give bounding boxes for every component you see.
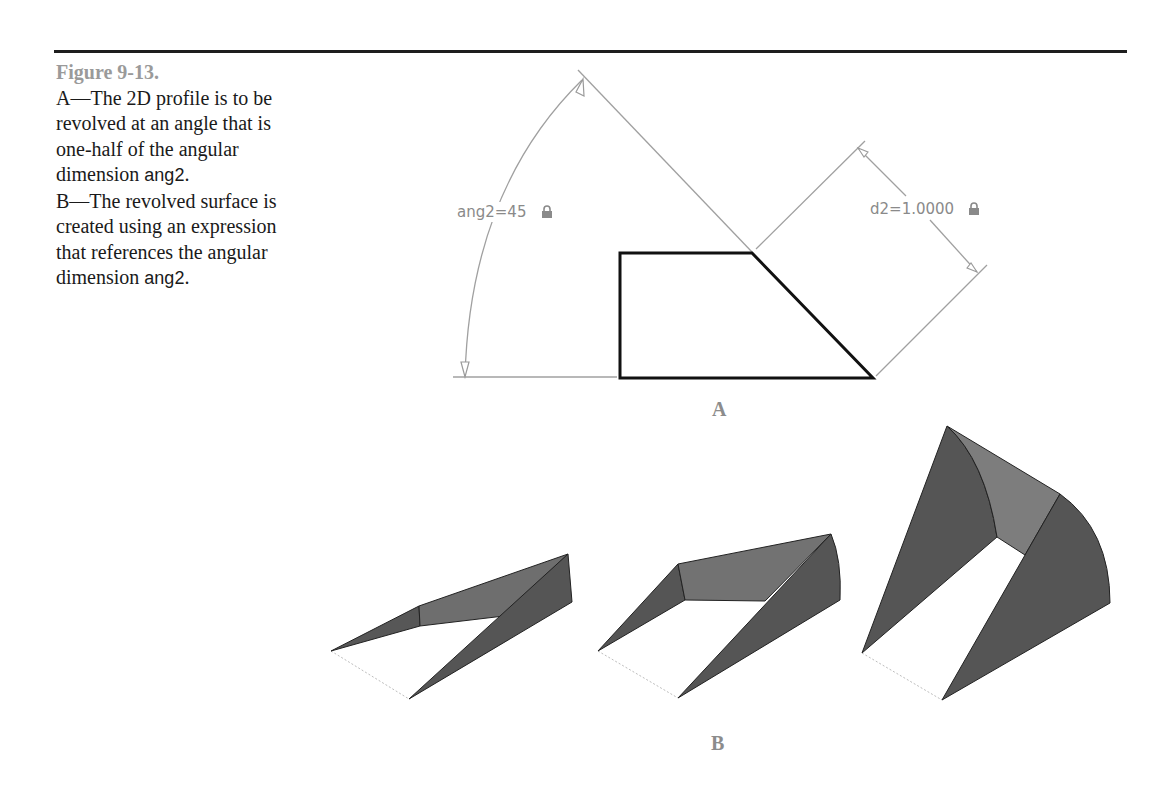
- linear-arrow-bottom: [967, 263, 977, 272]
- panel-a: ang2=45 d2=1.0000 A: [452, 70, 987, 420]
- revolved-surface-small: [331, 554, 572, 699]
- panel-b: B: [331, 426, 1110, 754]
- arc-arrow-bottom: [461, 362, 469, 377]
- angle-extension-line: [578, 70, 752, 252]
- revolved-surface-medium: [598, 534, 840, 698]
- figure-drawing: ang2=45 d2=1.0000 A: [0, 0, 1171, 792]
- 2d-profile: [620, 253, 873, 378]
- linear-dimension-label: d2=1.0000: [870, 200, 954, 218]
- angle-arc: [465, 80, 582, 377]
- panel-b-label: B: [711, 732, 724, 754]
- revolved-surface-large: [862, 426, 1110, 700]
- linear-extension-top: [756, 141, 865, 249]
- panel-a-label: A: [712, 398, 727, 420]
- lock-icon: [969, 203, 979, 215]
- linear-extension-bottom: [876, 265, 987, 376]
- angular-dimension-label: ang2=45: [457, 203, 526, 221]
